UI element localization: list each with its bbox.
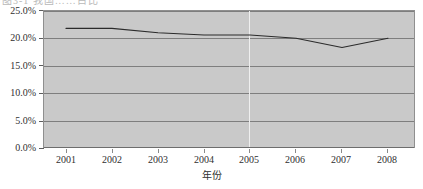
series-line (44, 11, 414, 147)
x-axis-tick (204, 149, 205, 153)
x-axis-tick-label: 2003 (135, 154, 181, 165)
x-axis-tick-label: 2007 (318, 154, 364, 165)
x-axis-tick (295, 149, 296, 153)
x-axis-tick (112, 149, 113, 153)
x-axis-tick (249, 149, 250, 153)
y-axis-tick-label: 0.0% (0, 143, 36, 153)
x-axis-tick (66, 149, 67, 153)
x-axis-tick (158, 149, 159, 153)
x-axis-tick-label: 2001 (43, 154, 89, 165)
x-axis-tick-label: 2004 (181, 154, 227, 165)
plot-area (43, 10, 415, 148)
x-axis-title: 年份 (0, 170, 423, 182)
y-axis-tick-label: 25.0% (0, 6, 36, 16)
x-axis-tick (341, 149, 342, 153)
y-axis-tick (39, 148, 44, 149)
y-axis-tick-label: 15.0% (0, 61, 36, 71)
x-axis-tick-label: 2005 (226, 154, 272, 165)
gridline-0 (44, 147, 414, 148)
plot-inner (44, 11, 414, 147)
x-axis-tick-label: 2008 (364, 154, 410, 165)
x-axis-tick (387, 149, 388, 153)
x-axis-tick-label: 2006 (272, 154, 318, 165)
line-chart-figure: 25.0% 20.0% 15.0% 10.0% 5.0% 0.0% (0, 0, 423, 189)
y-axis-tick-label: 5.0% (0, 116, 36, 126)
y-axis-tick-label: 10.0% (0, 88, 36, 98)
x-axis-tick-label: 2002 (89, 154, 135, 165)
y-axis-tick-label: 20.0% (0, 33, 36, 43)
